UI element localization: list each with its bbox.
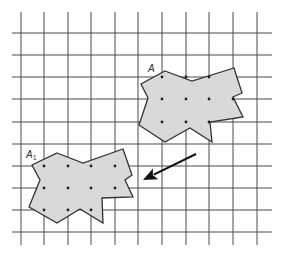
grid-point-dot xyxy=(43,165,46,168)
shapes xyxy=(29,68,243,223)
arrow-shaft xyxy=(154,154,196,175)
translation-diagram: AA1 xyxy=(0,0,286,257)
label-a: A xyxy=(147,63,155,74)
grid-point-dot xyxy=(114,165,117,168)
shape-a xyxy=(139,68,243,142)
translation-arrow-icon xyxy=(143,154,196,180)
grid-point-dot xyxy=(67,187,70,190)
grid-point-dot xyxy=(43,187,46,190)
grid-point-dot xyxy=(90,165,93,168)
grid-point-dot xyxy=(161,76,164,79)
grid-point-dot xyxy=(208,76,211,79)
grid-point-dot xyxy=(67,165,70,168)
grid-point-dot xyxy=(185,121,188,124)
grid-point-dot xyxy=(185,98,188,101)
grid-point-dot xyxy=(90,187,93,190)
grid-point-dot xyxy=(232,98,235,101)
grid-point-dot xyxy=(67,209,70,212)
grid-point-dot xyxy=(161,121,164,124)
grid-point-dot xyxy=(208,98,211,101)
grid-point-dot xyxy=(114,187,117,190)
polygon-a xyxy=(139,68,243,142)
grid-point-dot xyxy=(161,98,164,101)
grid-point-dot xyxy=(43,209,46,212)
label-a1: A1 xyxy=(25,149,37,161)
polygon-a1 xyxy=(29,149,133,223)
grid-point-dot xyxy=(185,76,188,79)
shape-a1 xyxy=(29,149,133,223)
grid-point-dot xyxy=(208,121,211,124)
label-subscript: 1 xyxy=(33,154,37,161)
grid-point-dot xyxy=(90,209,93,212)
